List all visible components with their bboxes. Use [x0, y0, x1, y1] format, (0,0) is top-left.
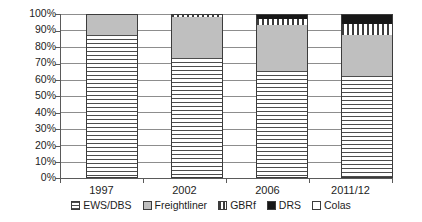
stacked-bar-chart: 100% 90% 80% 70% 60% 50% 40% 30% 20% 10%… — [0, 0, 422, 222]
y-axis-label-10: 10% — [2, 156, 56, 167]
x-axis-tick-2 — [226, 178, 227, 183]
legend-swatch-ews-dbs-icon — [71, 201, 80, 210]
y-axis-line — [60, 14, 61, 179]
chart-legend: EWS/DBS Freightliner GBRf DRS Colas — [0, 199, 422, 211]
x-axis-label-2011-12: 2011/12 — [309, 184, 392, 197]
x-axis-label-2006: 2006 — [226, 184, 309, 197]
y-axis-label-70: 70% — [2, 57, 56, 68]
y-axis-label-50: 50% — [2, 90, 56, 101]
segment-2006-drs — [256, 14, 308, 19]
segment-2006-freightliner — [256, 25, 308, 71]
y-axis-label-80: 80% — [2, 41, 56, 52]
y-axis-label-60: 60% — [2, 74, 56, 85]
legend-swatch-drs-icon — [267, 201, 276, 210]
legend-swatch-gbrf-icon — [218, 201, 227, 210]
segment-2006-ews-dbs — [256, 71, 308, 178]
x-axis-tick-1 — [143, 178, 144, 183]
legend-item-drs[interactable]: DRS — [267, 199, 301, 211]
segment-2006-gbrf — [256, 19, 308, 25]
y-axis-label-0: 0% — [2, 172, 56, 183]
segment-2011-12-drs — [341, 14, 393, 24]
y-axis-label-40: 40% — [2, 107, 56, 118]
y-axis-label-30: 30% — [2, 123, 56, 134]
segment-2011-12-freightliner — [341, 35, 393, 76]
legend-item-ews-dbs[interactable]: EWS/DBS — [71, 199, 131, 211]
legend-item-freightliner[interactable]: Freightliner — [143, 199, 208, 211]
legend-item-colas[interactable]: Colas — [312, 199, 351, 211]
segment-2002-ews-dbs — [171, 58, 223, 178]
legend-label-colas: Colas — [324, 199, 351, 211]
segment-2011-12-ews-dbs — [341, 76, 393, 178]
y-axis-label-90: 90% — [2, 24, 56, 35]
legend-item-gbrf[interactable]: GBRf — [218, 199, 256, 211]
legend-swatch-freightliner-icon — [143, 201, 152, 210]
legend-swatch-colas-icon — [312, 201, 321, 210]
segment-2002-freightliner — [171, 17, 223, 58]
x-axis-tick-0 — [60, 178, 61, 183]
plot-area — [60, 14, 392, 178]
x-axis-label-2002: 2002 — [143, 184, 226, 197]
legend-label-freightliner: Freightliner — [155, 199, 208, 211]
segment-1997-freightliner — [86, 14, 138, 35]
x-axis-tick-3 — [309, 178, 310, 183]
x-axis-tick-4 — [392, 178, 393, 183]
y-axis-label-100: 100% — [2, 8, 56, 19]
segment-2002-gbrf — [171, 14, 223, 17]
legend-label-ews-dbs: EWS/DBS — [83, 199, 131, 211]
legend-label-drs: DRS — [279, 199, 301, 211]
segment-2011-12-gbrf — [341, 24, 393, 35]
y-axis-label-20: 20% — [2, 140, 56, 151]
segment-1997-ews-dbs — [86, 35, 138, 178]
y-axis-labels: 100% 90% 80% 70% 60% 50% 40% 30% 20% 10%… — [0, 0, 56, 222]
x-axis-label-1997: 1997 — [60, 184, 143, 197]
legend-label-gbrf: GBRf — [230, 199, 256, 211]
